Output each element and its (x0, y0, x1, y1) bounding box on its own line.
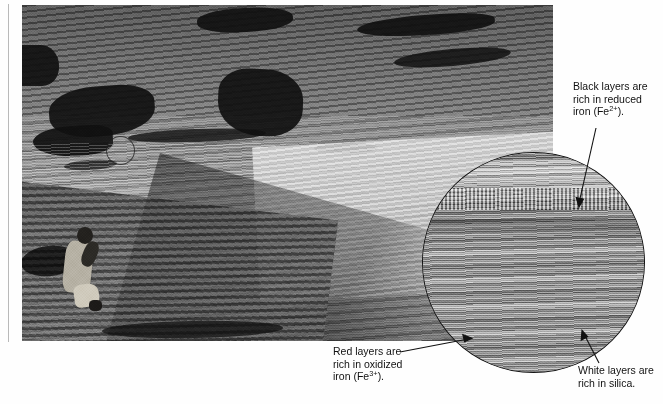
anno-red-line1: Red layers are (333, 345, 401, 357)
anno-white-line2: rich in silica. (578, 377, 635, 389)
credit-rule (8, 4, 9, 342)
magnified-spot-marker (106, 136, 135, 165)
anno-red-line3-pre: iron (Fe (333, 370, 369, 382)
inset-grain (423, 153, 644, 372)
anno-black-line3-pre: iron (Fe (573, 105, 609, 117)
anno-black-line1: Black layers are (573, 80, 648, 92)
anno-red-line2: rich in oxidized (333, 358, 402, 370)
anno-white-line1: White layers are (578, 364, 654, 376)
annotation-black-layers: Black layers arerich in reducediron (Fe2… (573, 80, 663, 118)
anno-black-line3-post: ). (618, 105, 624, 117)
anno-red-charge: 3+ (369, 369, 377, 378)
anno-black-line2: rich in reduced (573, 93, 642, 105)
magnified-inset-circle (422, 152, 645, 373)
figure-banded-iron-formation: Courtesy Brian J. Skinner (0, 0, 663, 404)
annotation-red-layers: Red layers arerich in oxidizediron (Fe3+… (333, 345, 433, 383)
annotation-white-layers: White layers arerich in silica. (578, 364, 663, 389)
anno-red-line3-post: ). (378, 370, 384, 382)
anno-black-charge: 2+ (609, 104, 617, 113)
